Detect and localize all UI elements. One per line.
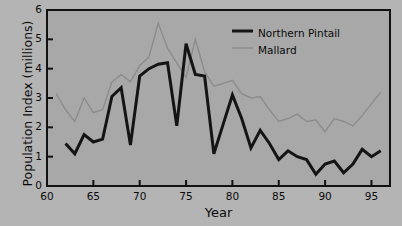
- chart-figure: Population Index (millions) Year 0123456…: [0, 0, 402, 226]
- plot-canvas: [0, 0, 402, 226]
- legend-item-northern-pintail: Northern Pintail: [258, 27, 340, 39]
- legend-item-mallard: Mallard: [258, 44, 297, 56]
